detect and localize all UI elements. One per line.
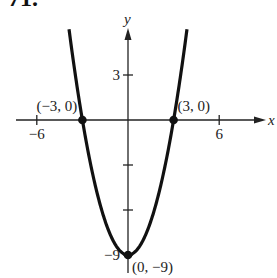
- problem-number: 71.: [8, 0, 38, 11]
- graph-figure: 71. xy−663−9 (−3, 0)(3, 0)(0, −9): [0, 0, 277, 278]
- x-axis-arrow-icon: [254, 117, 266, 124]
- point-label: (3, 0): [178, 98, 211, 115]
- x-axis-label: x: [267, 112, 275, 128]
- point-label: (−3, 0): [36, 98, 77, 115]
- point-marker: [169, 116, 178, 125]
- y-tick-label: 3: [113, 67, 121, 83]
- point-marker: [78, 116, 87, 125]
- x-tick-label: −6: [29, 126, 45, 142]
- parabola-plot: 71. xy−663−9 (−3, 0)(3, 0)(0, −9): [0, 0, 277, 278]
- y-axis-label: y: [122, 11, 131, 27]
- y-axis-arrow-icon: [125, 28, 132, 40]
- point-marker: [124, 251, 133, 260]
- labeled-points: (−3, 0)(3, 0)(0, −9): [36, 98, 210, 276]
- point-label: (0, −9): [132, 259, 173, 276]
- x-tick-label: 6: [215, 126, 223, 142]
